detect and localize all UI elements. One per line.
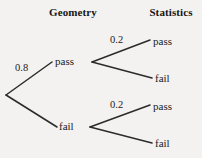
branch-geometry-fail-to-stats-fail — [90, 127, 152, 143]
column-header-statistics: Statistics — [140, 6, 202, 18]
branch-root-to-geometry-fail — [6, 95, 57, 127]
probability-label-bottom-to-pass: 0.2 — [110, 99, 123, 110]
node-statistics-top-fail: fail — [155, 73, 170, 84]
column-header-geometry: Geometry — [40, 6, 106, 18]
node-statistics-top-pass: pass — [153, 36, 172, 47]
probability-label-top-to-pass: 0.2 — [110, 34, 123, 45]
branch-geometry-pass-to-stats-fail — [92, 62, 152, 78]
node-statistics-bottom-fail: fail — [155, 138, 170, 149]
probability-label-root-to-pass: 0.8 — [15, 62, 28, 73]
node-geometry-fail: fail — [59, 121, 74, 132]
node-statistics-bottom-pass: pass — [153, 101, 172, 112]
node-geometry-pass: pass — [55, 56, 74, 67]
branch-root-to-geometry-pass — [6, 62, 52, 95]
probability-tree-diagram: Geometry Statistics 0.8 pass fail 0.2 pa… — [0, 0, 202, 158]
tree-branches-svg — [0, 0, 202, 158]
